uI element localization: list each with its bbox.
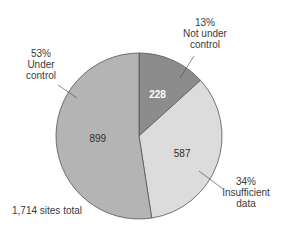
slice-name-label: Insufficient — [222, 187, 270, 198]
slice-callout-label: 53%Undercontrol — [26, 48, 56, 81]
total-sites-label: 1,714 sites total — [12, 205, 82, 216]
slice-callout-label: 13%Not undercontrol — [183, 17, 228, 50]
slice-name-label: Under — [27, 59, 55, 70]
slice-name-label: control — [190, 39, 220, 50]
slice-percent-label: 13% — [195, 17, 215, 28]
slice-percent-label: 34% — [236, 176, 256, 187]
slice-value-label: 228 — [149, 89, 166, 100]
pie-chart: 228587899 13%Not undercontrol34%Insuffic… — [0, 0, 281, 230]
pie-slices — [56, 53, 222, 219]
slice-name-label: data — [236, 198, 256, 209]
slice-name-label: Not under — [183, 28, 228, 39]
slice-percent-label: 53% — [31, 48, 51, 59]
slice-callout-label: 34%Insufficientdata — [222, 176, 270, 209]
slice-value-label: 899 — [89, 133, 106, 144]
slice-name-label: control — [26, 70, 56, 81]
slice-value-label: 587 — [174, 148, 191, 159]
